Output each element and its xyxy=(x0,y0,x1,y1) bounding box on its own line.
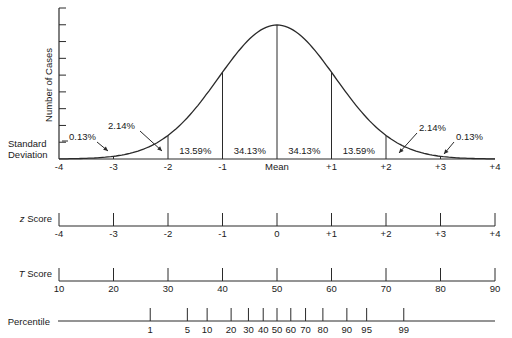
t-score-scale: 102030405060708090 xyxy=(54,268,501,294)
scale-tick-label: 1 xyxy=(148,324,153,335)
region-percentage: 13.59% xyxy=(343,145,376,156)
scale-tick-label: 10 xyxy=(54,283,65,294)
scale-tick-label: 20 xyxy=(108,283,119,294)
scale-tick-label: -4 xyxy=(55,228,63,239)
scale-tick-label: 10 xyxy=(202,324,213,335)
scale-tick-label: +2 xyxy=(381,228,392,239)
region-percentage: 13.59% xyxy=(179,145,212,156)
scale-tick-label: +1 xyxy=(326,228,337,239)
sd-tick-label: +1 xyxy=(326,161,337,172)
region-percentage: 2.14% xyxy=(108,120,135,131)
region-percentage: 34.13% xyxy=(288,145,321,156)
region-percentage: 34.13% xyxy=(234,145,267,156)
z-score-label: z Score xyxy=(19,213,52,224)
scale-tick-label: 50 xyxy=(272,283,283,294)
y-axis-label: Number of Cases xyxy=(43,48,54,122)
scale-tick-label: 60 xyxy=(326,283,337,294)
region-percentage: 2.14% xyxy=(419,122,446,133)
scale-tick-label: 60 xyxy=(285,324,296,335)
normal-curve-chart: -4-3-2-1Mean+1+2+3+413.59%34.13%34.13%13… xyxy=(0,0,512,338)
percentile-scale: 151020304050607080909599 xyxy=(58,308,495,335)
sd-label-line1: Standard xyxy=(8,138,47,149)
scale-tick-label: 5 xyxy=(185,324,190,335)
scale-tick-label: 90 xyxy=(342,324,353,335)
percentile-label: Percentile xyxy=(8,316,50,327)
sd-tick-label: Mean xyxy=(265,161,289,172)
scale-tick-label: 30 xyxy=(163,283,174,294)
scale-tick-label: 30 xyxy=(243,324,254,335)
scale-tick-label: -2 xyxy=(164,228,172,239)
scale-tick-label: 40 xyxy=(258,324,269,335)
scale-tick-label: 99 xyxy=(398,324,409,335)
scale-tick-label: 70 xyxy=(300,324,311,335)
sd-tick-label: +3 xyxy=(435,161,446,172)
scale-tick-label: 90 xyxy=(490,283,501,294)
sd-tick-label: -2 xyxy=(164,161,172,172)
t-score-label: T Score xyxy=(19,268,52,279)
scale-tick-label: 20 xyxy=(226,324,237,335)
scale-tick-label: 80 xyxy=(318,324,329,335)
scale-tick-label: 80 xyxy=(435,283,446,294)
scale-tick-label: +3 xyxy=(435,228,446,239)
scale-tick-label: 95 xyxy=(361,324,372,335)
scale-tick-label: +4 xyxy=(490,228,501,239)
scale-tick-label: 70 xyxy=(381,283,392,294)
scale-tick-label: -3 xyxy=(109,228,117,239)
scale-tick-label: -1 xyxy=(218,228,226,239)
z-score-scale: -4-3-2-10+1+2+3+4 xyxy=(55,213,501,239)
scale-tick-label: 0 xyxy=(274,228,279,239)
bell-curve-plot: -4-3-2-1Mean+1+2+3+413.59%34.13%34.13%13… xyxy=(55,8,501,172)
region-percentage: 0.13% xyxy=(456,131,483,142)
sd-tick-label: +2 xyxy=(381,161,392,172)
scale-tick-label: 50 xyxy=(272,324,283,335)
scale-tick-label: 40 xyxy=(217,283,228,294)
sd-label-line2: Deviation xyxy=(8,149,48,160)
sd-tick-label: -1 xyxy=(218,161,226,172)
region-percentage: 0.13% xyxy=(69,131,96,142)
sd-tick-label: +4 xyxy=(490,161,501,172)
sd-tick-label: -3 xyxy=(109,161,117,172)
sd-tick-label: -4 xyxy=(55,161,63,172)
